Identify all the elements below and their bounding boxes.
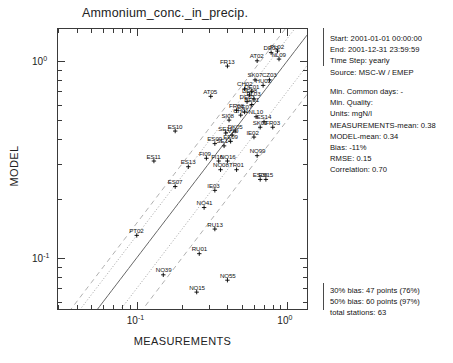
y-tick-right-9: [300, 258, 307, 259]
y-tick-right-11: [303, 164, 307, 165]
x-tick-13: [242, 305, 243, 309]
y-axis-title: MODEL: [8, 136, 20, 196]
x-tick-label-1: 100: [277, 314, 292, 326]
info-stats-block: Min. Common days: -Min. Quality:Units: m…: [330, 86, 436, 176]
x-tick-top-9: [137, 29, 138, 36]
y-tick-right-5: [303, 302, 307, 303]
y-tick-right-12: [303, 139, 307, 140]
x-tick-8: [130, 305, 131, 309]
point-label: NO16: [220, 154, 236, 160]
panel-divider-top: [323, 28, 324, 66]
plot-area: [57, 28, 308, 310]
point-label: NO41: [197, 200, 213, 206]
y-tick-right-18: [300, 61, 307, 62]
x-tick-top-11: [209, 29, 210, 33]
info-line: Units: mgN/l: [330, 108, 436, 119]
x-tick-2: [58, 305, 59, 309]
x-tick-top-3: [77, 29, 78, 33]
point-label: BE01: [244, 97, 259, 103]
x-tick-top-10: [182, 29, 183, 33]
x-tick-top-14: [254, 29, 255, 33]
y-tick-17: [58, 70, 62, 71]
scatter-plot-page: Ammonium_conc._in_precip. NL09DE02PL02AT…: [0, 0, 453, 363]
x-tick-top-17: [280, 29, 281, 33]
point-label: FR03: [265, 120, 280, 126]
point-label: FR13: [220, 59, 235, 65]
y-tick-18: [58, 61, 65, 62]
x-tick-6: [113, 305, 114, 309]
x-tick-15: [264, 305, 265, 309]
x-tick-9: [137, 302, 138, 309]
point-label: RU13: [207, 222, 222, 228]
x-tick-10: [182, 305, 183, 309]
panel-divider-bottom: [323, 283, 324, 310]
point-label: RU01: [192, 246, 207, 252]
info-line: Time Step: yearly: [330, 55, 422, 66]
x-tick-top-8: [130, 29, 131, 33]
y-tick-14: [58, 105, 62, 106]
y-tick-13: [58, 120, 62, 121]
info-bias-block: 30% bias: 47 points (76%)50% bias: 60 po…: [330, 285, 420, 319]
info-line: Correlation: 0.70: [330, 164, 436, 175]
x-tick-label-0: 10-1: [127, 314, 144, 326]
info-line: RMSE: 0.15: [330, 153, 436, 164]
y-tick-right-7: [303, 277, 307, 278]
point-label: ES11: [146, 154, 160, 160]
info-line: 30% bias: 47 points (76%): [330, 285, 420, 296]
x-tick-14: [254, 305, 255, 309]
point-label: NO15: [189, 285, 205, 291]
y-tick-8: [58, 267, 62, 268]
info-line: MEASUREMENTS-mean: 0.38: [330, 120, 436, 131]
point-label: IE02: [246, 130, 258, 136]
info-line: Bias: -11%: [330, 142, 436, 153]
x-tick-18: [287, 302, 288, 309]
reference-line-minus-50-percent-bias: [58, 94, 307, 309]
x-tick-top-12: [227, 29, 228, 33]
point-label: FI09: [199, 151, 211, 157]
point-label: NO39: [156, 267, 172, 273]
y-tick-label-1: 10-1: [32, 252, 49, 264]
point-label: SE14: [217, 138, 232, 144]
y-tick-6: [58, 288, 62, 289]
info-line: Min. Quality:: [330, 97, 436, 108]
y-tick-right-10: [303, 199, 307, 200]
x-tick-top-13: [242, 29, 243, 33]
point-label: ES07: [168, 179, 183, 185]
x-tick-16: [273, 305, 274, 309]
point-label: AT05: [203, 89, 217, 95]
y-tick-right-15: [303, 91, 307, 92]
point-label: ES13: [181, 159, 196, 165]
y-tick-16: [58, 80, 62, 81]
info-line: Start: 2001-01-01 00:00:00: [330, 33, 422, 44]
point-label: NO08: [213, 162, 229, 168]
x-tick-top-2: [58, 29, 59, 33]
x-tick-top-5: [103, 29, 104, 33]
y-tick-right-13: [303, 120, 307, 121]
x-tick-12: [227, 305, 228, 309]
y-tick-10: [58, 199, 62, 200]
info-line: 50% bias: 60 points (97%): [330, 296, 420, 307]
info-line: Source: MSC-W / EMEP: [330, 67, 422, 78]
point-label: NO55: [220, 273, 236, 279]
x-tick-top-16: [273, 29, 274, 33]
y-tick-7: [58, 277, 62, 278]
y-tick-right-17: [303, 70, 307, 71]
info-header-block: Start: 2001-01-01 00:00:00End: 2001-12-3…: [330, 33, 422, 78]
point-label: IE03: [207, 183, 219, 189]
point-label: ES10: [168, 124, 183, 130]
info-line: MODEL-mean: 0.34: [330, 131, 436, 142]
y-tick-9: [58, 258, 65, 259]
y-tick-11: [58, 164, 62, 165]
y-tick-5: [58, 302, 62, 303]
x-tick-5: [103, 305, 104, 309]
y-tick-right-16: [303, 80, 307, 81]
point-label: SI08: [222, 113, 234, 119]
point-label: NL09: [272, 52, 286, 58]
y-tick-right-8: [303, 267, 307, 268]
info-line: total stations: 63: [330, 307, 420, 318]
info-line: Min. Common days: -: [330, 86, 436, 97]
y-tick-15: [58, 91, 62, 92]
point-label: AT02: [250, 53, 264, 59]
reference-line-minus-30-percent-bias: [58, 66, 307, 309]
x-tick-17: [280, 305, 281, 309]
